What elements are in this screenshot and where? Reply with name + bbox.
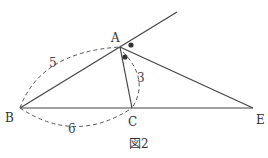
geometry-figure: A B C E 5 3 6 図2 <box>0 0 268 158</box>
figure-caption: 図2 <box>129 137 149 151</box>
figure-2-diagram: A B C E 5 3 6 図2 <box>0 0 268 158</box>
angle-mark-dot-lower <box>122 54 127 59</box>
point-label-B: B <box>5 111 14 125</box>
length-label-AB: 5 <box>49 56 57 70</box>
point-label-A: A <box>110 31 120 45</box>
line-BA-extended <box>20 12 177 108</box>
angle-mark-dot-upper <box>128 42 133 47</box>
length-label-AC: 3 <box>137 71 145 85</box>
dashed-arc-BC <box>20 108 132 127</box>
length-label-BC: 6 <box>68 122 76 136</box>
point-label-E: E <box>256 113 265 127</box>
point-label-C: C <box>128 115 137 129</box>
